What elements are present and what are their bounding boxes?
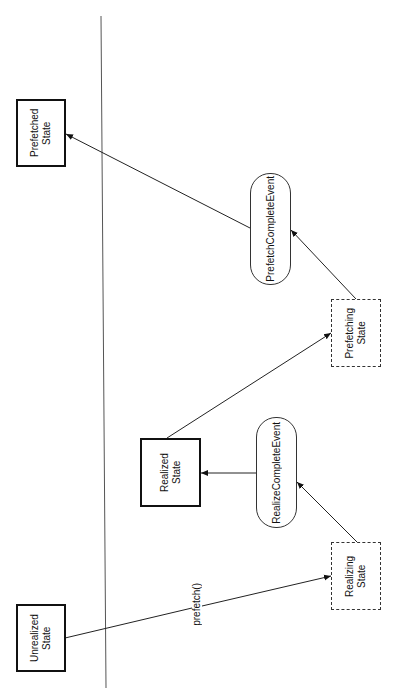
node-label: Unrealized State — [29, 606, 53, 670]
node-label: Realizing State — [344, 543, 368, 609]
node-realizing-state: Realizing State — [331, 542, 381, 610]
node-label: Realized State — [159, 440, 183, 505]
node-prefetched-state: Prefetched State — [16, 99, 66, 167]
node-prefetch-complete-event: PrefetchCompleteEvent — [250, 173, 291, 285]
edge-label-prefetch: prefetch() — [191, 583, 202, 626]
node-label: Prefetched State — [29, 101, 53, 165]
edge-realizing-to-realize-complete — [297, 482, 357, 542]
swimlane-divider — [101, 16, 106, 688]
edge-prefetch — [65, 608, 192, 638]
node-realize-complete-event: RealizeCompleteEvent — [256, 417, 297, 528]
edge-prefetch-complete-to-prefetched — [66, 134, 250, 228]
node-unrealized-state: Unrealized State — [16, 604, 66, 672]
edge-realized-to-prefetching — [167, 333, 331, 438]
node-label: PrefetchCompleteEvent — [265, 176, 277, 282]
node-prefetching-state: Prefetching State — [331, 299, 381, 367]
edge-prefetching-to-prefetch-complete — [291, 230, 356, 299]
edge-prefetch-tail — [202, 576, 331, 606]
node-label: Prefetching State — [344, 308, 368, 359]
node-realized-state: Realized State — [140, 438, 201, 507]
node-label: RealizeCompleteEvent — [271, 422, 283, 524]
